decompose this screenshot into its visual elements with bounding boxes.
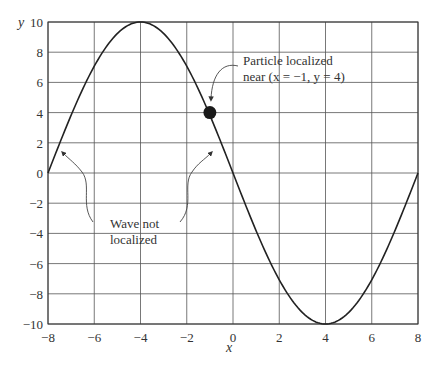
arrow-icon <box>63 153 93 222</box>
y-axis-label: y <box>16 15 25 30</box>
particle-annotation-line1: Particle localized <box>243 53 333 68</box>
y-tick-label: 0 <box>37 166 44 181</box>
x-tick-label: 4 <box>322 330 329 345</box>
particle-annotation-line2: near (x = −1, y = 4) <box>243 69 345 84</box>
x-axis-label: x <box>225 340 233 355</box>
y-tick-label: 10 <box>30 15 43 30</box>
x-tick-label: −6 <box>87 330 101 345</box>
y-tick-label: 4 <box>37 106 44 121</box>
y-tick-label: 2 <box>37 136 44 151</box>
y-tick-label: −2 <box>29 196 43 211</box>
x-tick-label: −8 <box>41 330 55 345</box>
x-tick-label: 6 <box>369 330 376 345</box>
y-tick-label: −4 <box>29 226 43 241</box>
y-tick-label: −8 <box>29 287 43 302</box>
particle-dot <box>203 106 216 119</box>
x-tick-label: 8 <box>415 330 422 345</box>
y-tick-label: −10 <box>23 317 43 332</box>
arrow-icon <box>180 153 211 222</box>
x-tick-label: 2 <box>276 330 283 345</box>
y-tick-label: −6 <box>29 257 43 272</box>
y-tick-label: 8 <box>37 45 44 60</box>
wave-annotation-line2: localized <box>110 232 157 247</box>
wave-annotation-line1: Wave not <box>110 216 160 231</box>
wave-particle-chart: −8−6−4−202468−10−8−6−4−20246810 Particle… <box>0 0 441 371</box>
x-tick-label: −2 <box>180 330 194 345</box>
x-tick-label: −4 <box>134 330 148 345</box>
y-tick-label: 6 <box>37 75 44 90</box>
